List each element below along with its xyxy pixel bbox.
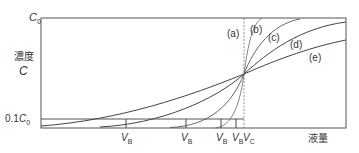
label-c: (c) (268, 32, 280, 43)
x-label-vb-4: VB (232, 132, 244, 145)
x-label-vb-1: VB (121, 132, 133, 145)
plot-frame (41, 18, 346, 128)
label-e: (e) (309, 52, 321, 63)
curve-d (100, 22, 346, 127)
label-d: (d) (290, 39, 302, 50)
label-a: (a) (227, 28, 239, 39)
breakthrough-chart: (a) (b) (c) (d) (e) C0 0.1C0 濃度 C VB VB … (0, 0, 359, 153)
x-label-vb-2: VB (181, 132, 193, 145)
x-label-vc: VC (243, 132, 255, 145)
y-axis-symbol: C (19, 64, 28, 78)
curve-e (41, 40, 346, 126)
y-axis-label: 濃度 (14, 50, 34, 62)
x-axis-label: 液量 (308, 132, 328, 144)
label-b: (b) (250, 24, 262, 35)
x-label-vb-3: VB (216, 132, 228, 145)
y-tick-01c0: 0.1C0 (5, 113, 30, 126)
y-tick-c0: C0 (29, 11, 41, 25)
